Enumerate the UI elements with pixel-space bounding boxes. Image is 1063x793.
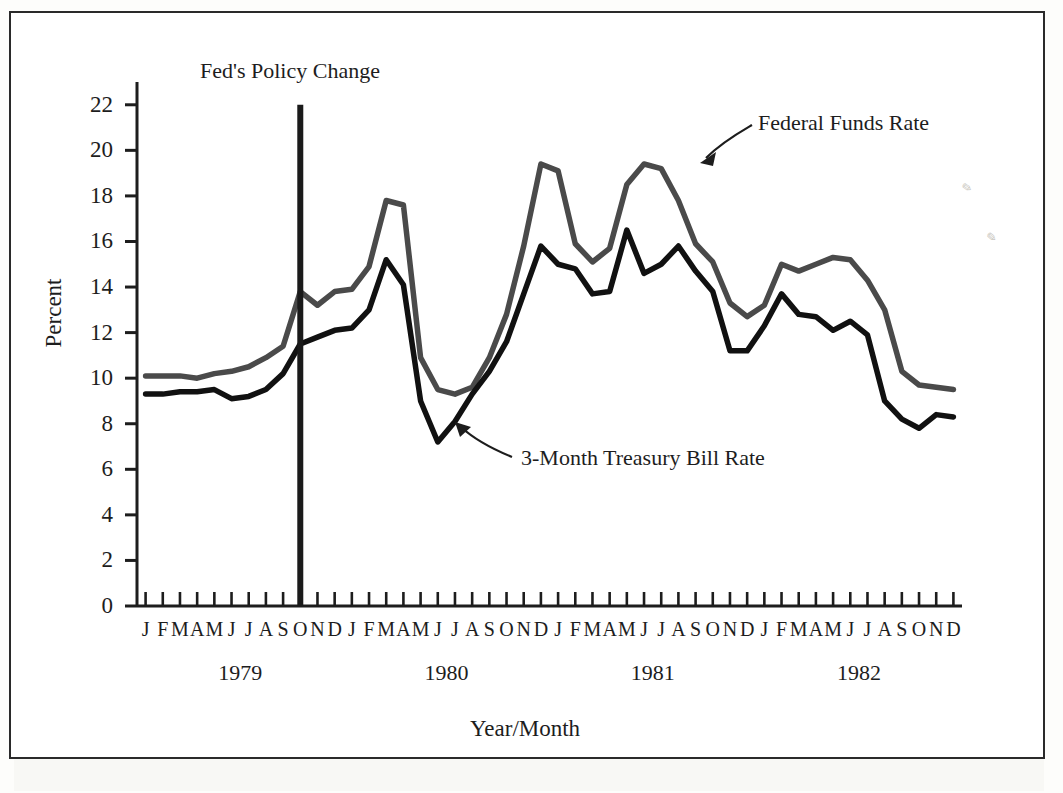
x-axis-title: Year/Month [470, 717, 580, 740]
y-tick-label: 20 [51, 138, 113, 161]
y-tick-label: 22 [51, 93, 113, 116]
y-tick-label: 8 [51, 412, 113, 435]
figure-page: ✎ ✎ 0246810121416182022 JFMAMJJASONDJFMA… [0, 0, 1063, 793]
y-tick-label: 0 [51, 594, 113, 617]
y-axis-title: Percent [41, 253, 67, 373]
y-tick-label: 6 [51, 457, 113, 480]
annotation-treasury-bill-rate: 3-Month Treasury Bill Rate [521, 447, 765, 469]
line-3-month-treasury-bill-rate [146, 230, 954, 442]
y-tick-label: 2 [51, 548, 113, 571]
y-tick-label: 4 [51, 503, 113, 526]
y-tick-marks [125, 105, 137, 606]
y-tick-label: 18 [51, 184, 113, 207]
annotation-federal-funds-rate: Federal Funds Rate [758, 112, 929, 134]
annotation-fed-policy-change: Fed's Policy Change [200, 60, 380, 82]
year-label: 1981 [608, 662, 698, 684]
year-label: 1979 [195, 662, 285, 684]
callout-arrow-treasury-bill [455, 422, 512, 457]
year-label: 1980 [401, 662, 491, 684]
x-tick-marks [146, 592, 954, 606]
y-tick-label: 16 [51, 229, 113, 252]
x-tick-label: D [942, 619, 964, 639]
axes [137, 82, 962, 606]
year-label: 1982 [814, 662, 904, 684]
callout-arrow-federal-funds [700, 125, 752, 166]
line-federal-funds-rate [146, 164, 954, 394]
